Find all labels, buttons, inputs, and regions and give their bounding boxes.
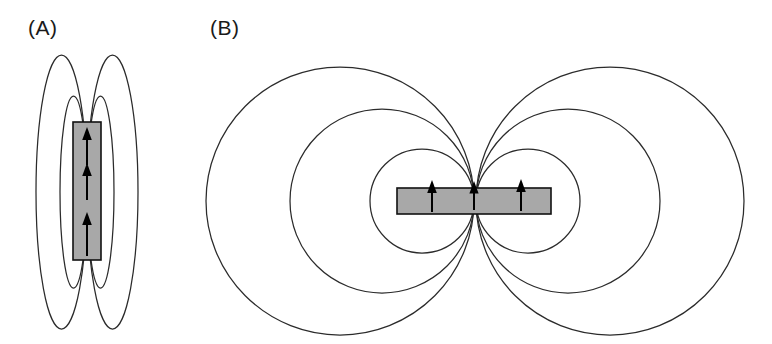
panel-a-label: (A) — [28, 16, 58, 39]
figure-root: (A) — [0, 0, 772, 344]
figure-canvas: (A) — [0, 0, 772, 344]
panel-a-magnet — [73, 122, 101, 260]
panel-b-label: (B) — [210, 16, 240, 39]
